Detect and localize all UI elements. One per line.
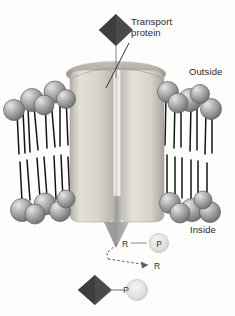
transport-protein-label: Transport protein [131, 16, 172, 38]
solute-diamond-bottom [78, 275, 112, 305]
inside-label: Inside [190, 224, 216, 235]
solute-diamond-top [99, 14, 133, 46]
figure-canvas: Transport protein Outside Inside R P R P [0, 0, 235, 316]
bilayer-inner-right-heads [160, 191, 221, 223]
receptor-phosphorylated-label: R [120, 239, 130, 249]
reaction-arrowhead [141, 262, 148, 269]
bilayer-outer-right-heads [158, 82, 222, 120]
protein-subunit-left [70, 70, 114, 222]
receptor-free-label: R [152, 261, 162, 271]
phosphate-released-label: P [154, 239, 164, 249]
diagram-svg [0, 0, 235, 316]
outside-label: Outside [189, 66, 222, 77]
phosphate-bound-label: P [121, 285, 131, 295]
bilayer-inner-left-heads [11, 190, 76, 224]
bilayer-outer-left-heads [4, 81, 76, 121]
